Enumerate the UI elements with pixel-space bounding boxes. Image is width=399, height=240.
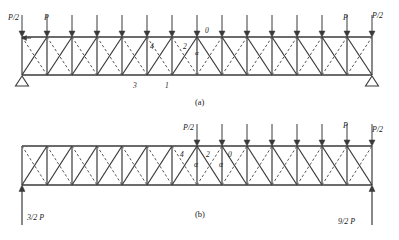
panel-a-node-label-1: 2 — [183, 43, 187, 51]
panel-a-load-arrow-5-head — [144, 31, 150, 37]
panel-a-load-arrow-9-head — [244, 31, 250, 37]
panel-b-load-label-0: P/2 — [183, 124, 194, 132]
panel-b-load-arrow-9-head — [244, 140, 250, 146]
panel-a-support-right — [366, 76, 379, 86]
panel-b-node-label-1: 2 — [206, 151, 210, 159]
panel-b-node-label-0: 4 — [180, 151, 184, 159]
panel-b-node-label-2: 0 — [228, 151, 232, 159]
panel-a-load-arrow-10-head — [269, 31, 275, 37]
panel-b-reaction-label-0: 3/2 P — [27, 214, 44, 222]
panel-a-load-arrow-6-head — [169, 31, 175, 37]
panel-b-load-label-1: P — [343, 122, 348, 130]
panel-a-load-arrow-8-head — [219, 31, 225, 37]
panel-a-load-arrow-3-head — [94, 31, 100, 37]
panel-b-caption: (b) — [195, 210, 205, 219]
panel-b-load-arrow-13-head — [344, 140, 350, 146]
panel-a-load-arrow-7-head — [194, 31, 200, 37]
panel-a-caption: (a) — [195, 98, 204, 107]
panel-a-angle-label-0: α — [195, 50, 199, 57]
panel-b-reaction-label-1: 9/2 P — [338, 218, 355, 226]
panel-b-load-arrow-11-head — [294, 140, 300, 146]
panel-a-load-arrow-2-head — [69, 31, 75, 37]
panel-a-load-arrow-1-head — [44, 31, 50, 37]
panel-a-load-arrow-11-head — [294, 31, 300, 37]
panel-a-node-label-3: 1 — [165, 82, 169, 90]
panel-b-node-label-3: α — [194, 161, 198, 169]
truss-svg — [0, 0, 399, 240]
panel-b-reaction-left-head — [19, 185, 25, 192]
panel-a-node-label-0: 0 — [205, 27, 209, 35]
truss-figure: P/2PPP/202413α(a)P/2PP/2420αα3/2 P9/2 P(… — [0, 0, 399, 240]
panel-b-load-label-2: P/2 — [372, 126, 383, 134]
panel-a-load-label-3: P/2 — [372, 12, 383, 20]
panel-b-reaction-right-head — [369, 185, 375, 192]
panel-b-load-arrow-8-head — [219, 140, 225, 146]
panel-a-node-label-4: 3 — [133, 82, 137, 90]
panel-a-load-arrow-0-head — [19, 31, 25, 37]
panel-a-load-arrow-12-head — [319, 31, 325, 37]
panel-a-load-arrow-13-head — [344, 31, 350, 37]
panel-a-node-label-2: 4 — [150, 43, 154, 51]
panel-b-load-arrow-14-head — [369, 140, 375, 146]
panel-a-load-label-2: P — [343, 14, 348, 22]
panel-a-load-arrow-4-head — [119, 31, 125, 37]
panel-a-load-label-1: P — [44, 14, 49, 22]
panel-b-load-arrow-12-head — [319, 140, 325, 146]
panel-a-support-left — [16, 76, 29, 86]
panel-b-load-arrow-7-head — [194, 140, 200, 146]
panel-b-load-arrow-10-head — [269, 140, 275, 146]
panel-a-load-arrow-14-head — [369, 31, 375, 37]
panel-a-load-label-0: P/2 — [8, 14, 19, 22]
panel-b-node-label-4: α — [219, 161, 223, 169]
